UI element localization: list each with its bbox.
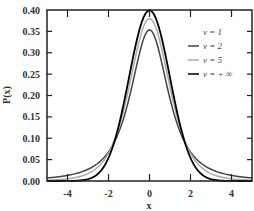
y-tick-label: 0.40 bbox=[23, 5, 41, 16]
legend-entry: ν = 2 bbox=[203, 41, 223, 51]
t-distribution-chart: 0.000.050.100.150.200.250.300.350.40 -4-… bbox=[0, 0, 254, 211]
x-tick-label: -4 bbox=[63, 188, 71, 199]
y-tick-label: 0.35 bbox=[23, 26, 41, 37]
x-tick-label: 2 bbox=[188, 188, 193, 199]
x-axis: -4-2024 bbox=[63, 10, 234, 199]
x-tick-label: -2 bbox=[104, 188, 112, 199]
y-tick-label: 0.15 bbox=[23, 111, 41, 122]
y-tick-label: 0.25 bbox=[23, 69, 41, 80]
y-tick-label: 0.30 bbox=[23, 47, 41, 58]
y-tick-label: 0.00 bbox=[23, 176, 41, 187]
x-tick-label: 0 bbox=[147, 188, 152, 199]
x-tick-label: 4 bbox=[229, 188, 234, 199]
legend-entry: ν = 5 bbox=[203, 55, 223, 65]
curve-series-1 bbox=[47, 30, 252, 178]
y-tick-label: 0.20 bbox=[23, 90, 41, 101]
y-tick-label: 0.10 bbox=[23, 133, 41, 144]
legend-entry: ν = + ∞ bbox=[203, 69, 232, 79]
y-tick-label: 0.05 bbox=[23, 154, 41, 165]
x-axis-label: x bbox=[147, 200, 152, 211]
y-axis-label: P(x) bbox=[1, 86, 13, 104]
legend-entry: ν = 1 bbox=[203, 27, 222, 37]
legend: ν = 1ν = 2ν = 5ν = + ∞ bbox=[188, 27, 232, 79]
